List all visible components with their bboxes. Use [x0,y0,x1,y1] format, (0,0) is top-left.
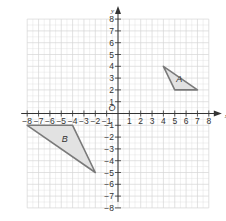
x-tick-label: 5 [172,116,177,126]
y-tick-label: −8 [104,203,114,213]
x-tick-label: −7 [34,116,44,126]
x-axis-arrow-icon [214,111,222,117]
origin-label: O [108,103,115,113]
y-tick-label: −2 [104,132,114,142]
x-tick-label: 3 [150,116,155,126]
y-tick-label: 4 [109,61,114,71]
x-tick-label: 8 [206,116,211,126]
y-tick-label: −5 [104,168,114,178]
y-tick-label: 7 [109,26,114,36]
x-tick-label: −2 [90,116,100,126]
y-tick-label: 3 [109,73,114,83]
triangle-label-a: A [175,74,182,84]
y-tick-label: 8 [109,14,114,24]
x-axis-label: x [224,112,226,120]
y-tick-label: 2 [109,85,114,95]
x-tick-label: −4 [68,116,78,126]
x-tick-label: 7 [195,116,200,126]
y-tick-label: 5 [109,50,114,60]
x-tick-label: −8 [22,116,32,126]
y-axis-label: y [110,7,115,15]
y-tick-label: −7 [104,191,114,201]
y-tick-label: 6 [109,38,114,48]
y-tick-label: −6 [104,179,114,189]
x-tick-label: 1 [127,116,132,126]
x-tick-label: 6 [184,116,189,126]
y-tick-label: −4 [104,156,114,166]
coordinate-grid: AB −8−7−6−5−4−3−2−11234567887654321−1−2−… [0,0,226,221]
x-tick-label: −3 [79,116,89,126]
tick-labels: −8−7−6−5−4−3−2−11234567887654321−1−2−3−4… [22,7,226,213]
y-tick-label: −3 [104,144,114,154]
x-tick-label: 4 [161,116,166,126]
x-tick-label: 2 [138,116,143,126]
y-axis-arrow-icon [115,6,121,14]
x-tick-label: −6 [45,116,55,126]
x-tick-label: −5 [56,116,66,126]
y-tick-label: −1 [104,120,114,130]
triangle-label-b: B [62,134,68,144]
